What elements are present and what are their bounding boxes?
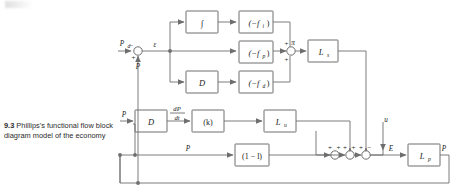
label-feedback-p: P [135, 63, 141, 71]
block-gain-i-paren: ) [267, 19, 270, 28]
sign-demand-minus: − [130, 42, 134, 50]
wire-u-into-sum4 [370, 150, 383, 155]
label-dpdt-denominator: dt [174, 114, 179, 121]
label-error: ε [154, 41, 157, 49]
block-lag-p-label: L [419, 151, 425, 161]
block-lag-u-sub: u [284, 122, 287, 128]
block-gain-d-paren: ) [267, 79, 270, 88]
block-gain-d-label: (−f [249, 78, 262, 88]
sign-j5-top: − [368, 144, 372, 152]
wire-global-feedback [120, 155, 449, 183]
sign-j2-bottom: + [285, 56, 289, 64]
wire-lag-s-to-sum4 [338, 51, 366, 150]
block-gain-i-label: (−f [249, 18, 262, 28]
block-derivative-mid-label: D [147, 117, 155, 127]
summing-junction-4 [362, 151, 370, 159]
block-gain-d-sub: d [263, 83, 266, 89]
sign-j3-left: + [328, 144, 332, 152]
block-lag-u-label: L [275, 117, 281, 127]
sign-j4-top: + [352, 144, 356, 152]
sign-j4-left: + [343, 144, 347, 152]
figure-container: 9.3 Phillips's functional flow block dia… [0, 0, 462, 195]
wire-error-to-derivative [170, 51, 184, 82]
sign-feedback-plus: + [132, 54, 136, 62]
label-demand: P [119, 40, 125, 48]
block-gain-p-label: (−f [249, 48, 262, 58]
label-dpdt-numerator: dP [173, 105, 180, 112]
sign-j2-top: + [285, 40, 289, 48]
summing-junction-3 [346, 151, 354, 159]
sign-j5-left: + [359, 144, 363, 152]
label-expenditure: E [388, 145, 394, 153]
block-lag-s-sub: s [327, 52, 329, 58]
block-accelerator-label: (k) [203, 118, 213, 127]
block-diagram: P d − + P ε ∫ D (−f i ) (−f p [0, 0, 462, 195]
block-gain-p-sub: p [262, 53, 266, 59]
sign-j3-top: + [337, 144, 341, 152]
wire-lag-u-to-sum3 [296, 121, 350, 150]
block-lag-p-sub: p [427, 156, 431, 162]
label-input-p-low: P [185, 145, 191, 153]
block-lag-s-label: L [318, 47, 324, 57]
label-output-p: P [441, 145, 447, 153]
node-feedback-corner [136, 181, 140, 185]
block-gain-p-paren: ) [267, 49, 270, 58]
label-exogenous-u: u [384, 116, 388, 124]
block-propensity-label: (1 − l) [242, 152, 262, 161]
block-derivative-top-label: D [198, 78, 206, 88]
wire-bottom-to-derivative-mid [133, 124, 135, 155]
wire-error-to-integral [170, 22, 184, 51]
label-input-p-mid: P [121, 111, 127, 119]
label-sum-out: π [291, 39, 295, 47]
summing-junction-pi [287, 47, 295, 55]
